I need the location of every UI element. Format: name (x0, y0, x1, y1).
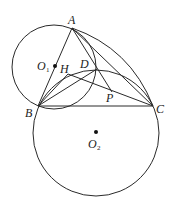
label-a: A (67, 13, 76, 27)
geometry-diagram: A B C D H P O 1 O 2 (0, 0, 173, 207)
label-p: P (105, 91, 114, 105)
label-o1-sub: 1 (46, 66, 50, 74)
label-b: B (25, 106, 33, 120)
center-dot-o1 (53, 64, 57, 68)
label-h: H (59, 62, 70, 76)
segment-ap (72, 28, 112, 92)
label-o2-sub: 2 (97, 144, 101, 152)
label-d: D (79, 57, 89, 71)
label-o1: O (37, 59, 46, 73)
center-dot-o2 (94, 130, 98, 134)
label-c: C (156, 102, 165, 116)
label-o2: O (88, 137, 97, 151)
